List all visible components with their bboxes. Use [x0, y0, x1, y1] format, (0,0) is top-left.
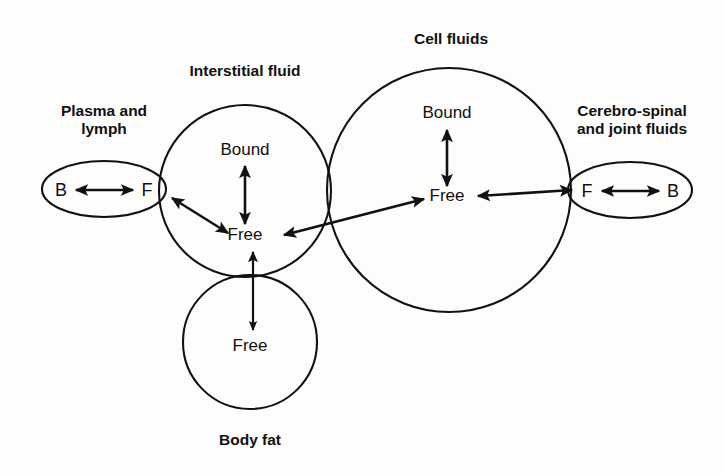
plasma-to-interstitial-arrow: [172, 198, 228, 233]
csf-joint-fluids-title-line1: Cerebro-spinal: [577, 102, 686, 119]
compartment-diagram: Plasma and lymph B F Interstitial fluid …: [0, 0, 724, 475]
csf-free-label: F: [582, 181, 593, 201]
body-fat-free-label: Free: [233, 336, 268, 355]
cell-to-csf-arrow: [478, 190, 572, 196]
csf-joint-fluids-title-line2: and joint fluids: [577, 120, 687, 137]
plasma-bound-label: B: [55, 180, 67, 200]
interstitial-fluid-title: Interstitial fluid: [189, 62, 300, 79]
plasma-free-label: F: [142, 180, 153, 200]
cell-free-label: Free: [430, 186, 465, 205]
plasma-lymph-title-line2: lymph: [81, 120, 127, 137]
interstitial-to-cell-arrow: [284, 199, 424, 235]
diagram-canvas: Plasma and lymph B F Interstitial fluid …: [0, 0, 724, 475]
body-fat-title: Body fat: [219, 431, 281, 448]
plasma-lymph-title-line1: Plasma and: [61, 102, 147, 119]
interstitial-bound-label: Bound: [220, 140, 269, 159]
interstitial-free-label: Free: [228, 225, 263, 244]
csf-bound-label: B: [667, 181, 679, 201]
cell-fluids-title: Cell fluids: [414, 30, 488, 47]
cell-bound-label: Bound: [422, 103, 471, 122]
